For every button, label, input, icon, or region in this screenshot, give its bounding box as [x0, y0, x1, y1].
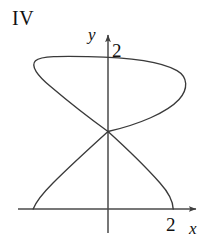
curve-upper-loop: [34, 56, 186, 131]
curve-plot: [0, 0, 213, 241]
y-axis-label: y: [88, 26, 96, 43]
panel-label: IV: [12, 8, 34, 28]
curve-lower-left-branch: [33, 132, 108, 210]
figure-panel: IV y x 2 2: [0, 0, 213, 241]
x-axis-label: x: [189, 220, 197, 237]
x-axis-tick-label-2: 2: [166, 215, 176, 234]
y-axis-tick-label-2: 2: [112, 41, 122, 60]
curve-lower-right-branch: [108, 132, 173, 210]
